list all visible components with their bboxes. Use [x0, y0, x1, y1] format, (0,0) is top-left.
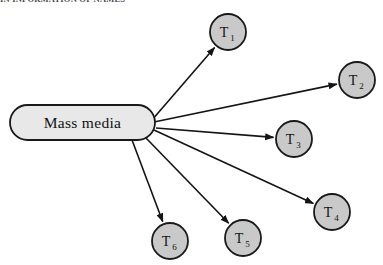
node-label-t4: T	[324, 205, 333, 220]
edge-mass-media-to-t3	[156, 128, 274, 137]
node-t5[interactable]: T5	[225, 220, 261, 256]
node-t6[interactable]: T6	[152, 223, 188, 259]
node-label-t3: T	[286, 132, 295, 147]
node-subscript-t5: 5	[245, 239, 250, 249]
hub-label: Mass media	[44, 114, 121, 131]
diagram-canvas: IN INFORMATION OF NAMES Mass media T1T2T…	[0, 0, 383, 265]
node-t2[interactable]: T2	[339, 62, 375, 98]
edge-mass-media-to-t1	[152, 48, 215, 120]
node-subscript-t4: 4	[334, 213, 339, 223]
node-subscript-t1: 1	[230, 33, 235, 43]
node-subscript-t6: 6	[172, 242, 177, 252]
node-label-t2: T	[349, 73, 358, 88]
node-t1[interactable]: T1	[210, 14, 246, 50]
node-subscript-t2: 2	[359, 81, 364, 91]
node-t3[interactable]: T3	[276, 121, 312, 157]
node-subscript-t3: 3	[296, 140, 301, 150]
node-label-t6: T	[162, 234, 171, 249]
edge-mass-media-to-t6	[132, 140, 163, 222]
hub-group: Mass media	[10, 105, 155, 140]
edge-mass-media-to-t2	[154, 84, 337, 122]
mass-media-radial-diagram: Mass media T1T2T3T4T5T6	[0, 0, 383, 265]
node-label-t5: T	[235, 231, 244, 246]
node-label-t1: T	[220, 25, 229, 40]
node-t4[interactable]: T4	[314, 194, 350, 230]
